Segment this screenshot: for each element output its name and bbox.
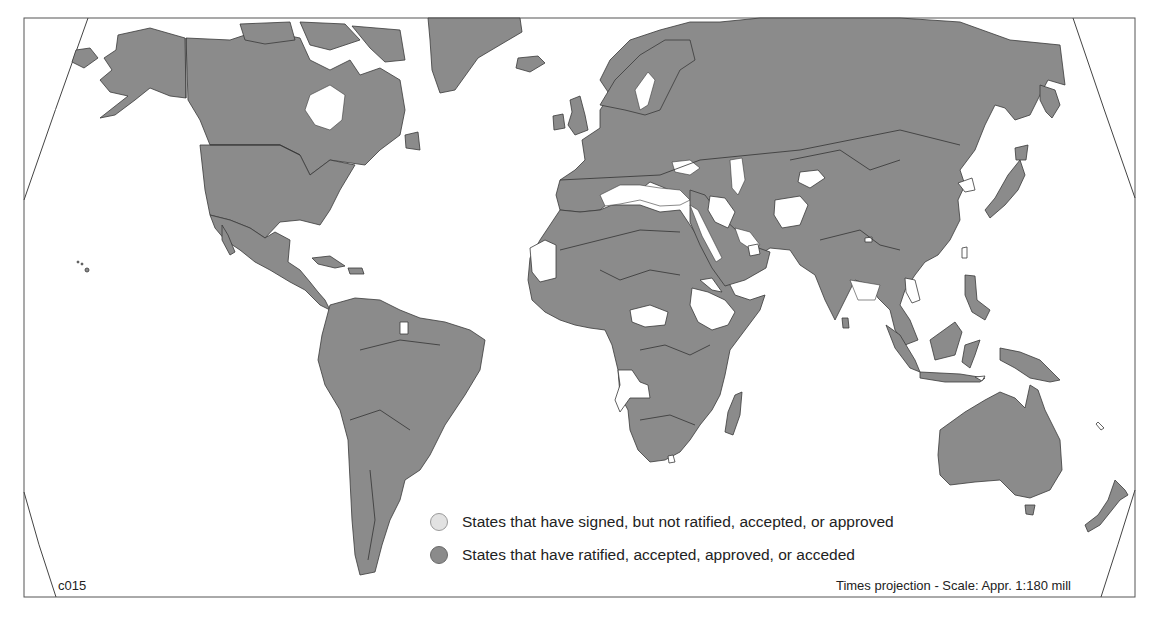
ratified-swatch-icon: [430, 546, 448, 564]
projection-edge-left-bottom: [24, 492, 56, 597]
projection-scale-label: Times projection - Scale: Appr. 1:180 mi…: [836, 578, 1071, 593]
projection-edge-right-top: [1073, 18, 1135, 198]
map-id-label: c015: [58, 578, 86, 593]
legend-item-ratified: States that have ratified, accepted, app…: [430, 538, 894, 571]
region-suriname: [400, 322, 408, 334]
region-taiwan: [962, 247, 967, 258]
region-new-caledonia: [1096, 422, 1104, 430]
legend-item-signed: States that have signed, but not ratifie…: [430, 505, 894, 538]
map-legend: States that have signed, but not ratifie…: [430, 505, 894, 571]
legend-label-signed: States that have signed, but not ratifie…: [462, 513, 894, 531]
legend-label-ratified: States that have ratified, accepted, app…: [462, 546, 855, 564]
region-uae: [748, 244, 760, 256]
region-lesotho: [668, 455, 675, 463]
signed-swatch-icon: [430, 513, 448, 531]
land-ratified: [72, 18, 1128, 575]
region-thailand: [905, 278, 920, 303]
projection-edge-left-top: [24, 18, 88, 200]
